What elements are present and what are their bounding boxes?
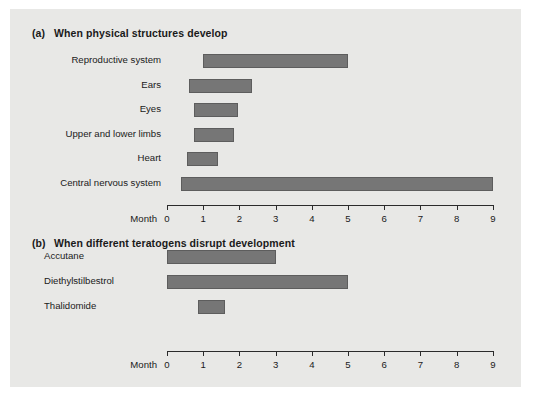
- axis-tick: [420, 205, 421, 210]
- row-label: Reproductive system: [0, 54, 161, 66]
- axis-tick: [384, 205, 385, 210]
- axis-tick: [493, 351, 494, 356]
- range-bar: [198, 300, 225, 314]
- range-bar: [187, 152, 218, 166]
- figure-panel: (a)When physical structures develop Repr…: [10, 9, 521, 387]
- chart-panel-a: (a)When physical structures develop Repr…: [10, 9, 521, 209]
- chart-row: Diethylstilbestrol: [10, 272, 521, 294]
- row-label: Central nervous system: [0, 177, 161, 189]
- axis-tick-label: 3: [273, 359, 278, 370]
- panel-b-axis: 0123456789Month: [10, 351, 521, 381]
- axis-tick: [203, 205, 204, 210]
- chart-row: Thalidomide: [10, 297, 521, 319]
- row-label: Heart: [0, 152, 161, 164]
- chart-row: Reproductive system: [10, 51, 521, 73]
- range-bar: [203, 54, 348, 68]
- chart-row: Heart: [10, 149, 521, 171]
- chart-panel-b: (b)When different teratogens disrupt dev…: [10, 219, 521, 387]
- range-bar: [167, 250, 276, 264]
- axis-tick: [276, 351, 277, 356]
- axis-tick-label: 6: [382, 359, 387, 370]
- range-bar: [189, 79, 252, 93]
- axis-tick: [203, 351, 204, 356]
- axis-line: [167, 205, 493, 206]
- axis-tick: [167, 351, 168, 356]
- axis-tick: [239, 351, 240, 356]
- axis-tick: [239, 205, 240, 210]
- range-bar: [194, 103, 237, 117]
- axis-tick-label: 2: [237, 359, 242, 370]
- axis-line: [167, 351, 493, 352]
- chart-row: Upper and lower limbs: [10, 125, 521, 147]
- axis-tick: [348, 351, 349, 356]
- axis-tick: [457, 205, 458, 210]
- axis-tick-label: 7: [418, 359, 423, 370]
- chart-row: Eyes: [10, 100, 521, 122]
- axis-tick-label: 0: [164, 359, 169, 370]
- chart-row: Central nervous system: [10, 174, 521, 196]
- chart-row: Accutane: [10, 247, 521, 269]
- axis-tick: [312, 351, 313, 356]
- axis-tick: [457, 351, 458, 356]
- axis-tick-label: 1: [201, 359, 206, 370]
- range-bar: [181, 177, 492, 191]
- range-bar: [167, 275, 348, 289]
- row-label: Eyes: [0, 103, 161, 115]
- panel-a-plot-area: Reproductive systemEarsEyesUpper and low…: [10, 9, 521, 209]
- axis-tick: [276, 205, 277, 210]
- chart-row: Ears: [10, 76, 521, 98]
- axis-tick-label: 8: [454, 359, 459, 370]
- axis-tick: [493, 205, 494, 210]
- axis-title: Month: [113, 359, 157, 370]
- axis-tick: [348, 205, 349, 210]
- row-label: Ears: [0, 79, 161, 91]
- axis-tick-label: 4: [309, 359, 314, 370]
- row-label: Upper and lower limbs: [0, 128, 161, 140]
- axis-tick-label: 9: [490, 359, 495, 370]
- axis-tick-label: 5: [345, 359, 350, 370]
- axis-tick: [167, 205, 168, 210]
- axis-tick: [384, 351, 385, 356]
- axis-tick: [420, 351, 421, 356]
- axis-tick: [312, 205, 313, 210]
- range-bar: [194, 128, 234, 142]
